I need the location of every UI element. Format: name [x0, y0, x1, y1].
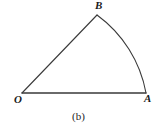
vertex-label-a: A — [144, 93, 151, 104]
vertex-label-o: O — [14, 94, 22, 105]
figure-container: O A B (b) — [0, 0, 157, 133]
figure-caption: (b) — [0, 110, 157, 123]
arc-ba-curve — [97, 15, 146, 93]
radius-ob-line — [22, 15, 97, 93]
vertex-label-b: B — [95, 0, 102, 11]
